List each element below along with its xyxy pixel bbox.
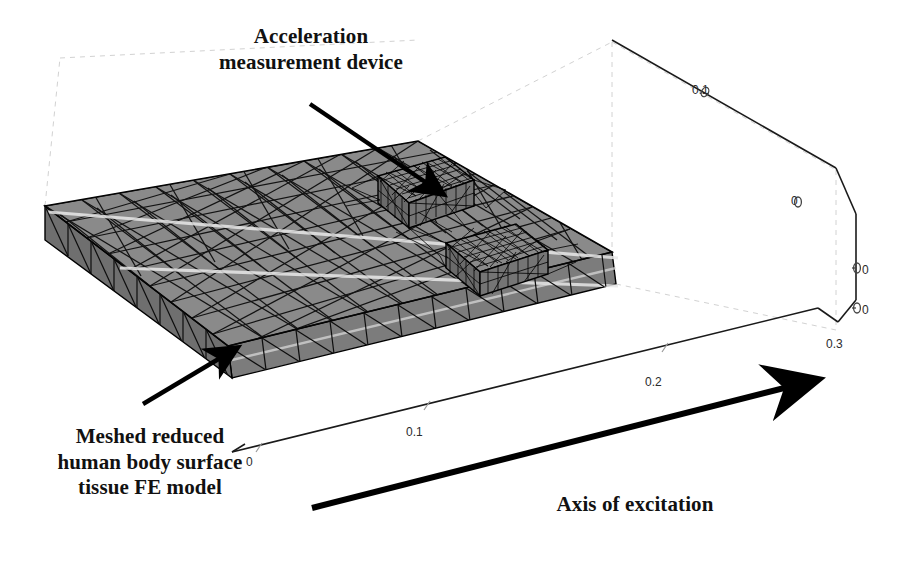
tick-x-02: 0.2	[645, 375, 662, 389]
callout-mesh-arrow	[143, 348, 237, 404]
tick-z-0b: 0	[862, 303, 869, 317]
axis-of-excitation-arrow	[312, 381, 812, 508]
tick-x-01: 0.1	[406, 425, 423, 439]
label-meshed-fe-model: Meshed reduced human body surface tissue…	[18, 424, 282, 501]
depth-axis-ticks	[700, 86, 802, 207]
label-acceleration-measurement-device: Acceleration measurement device	[178, 24, 444, 75]
figure-canvas: Acceleration measurement device Meshed r…	[0, 0, 898, 562]
label-axis-of-excitation: Axis of excitation	[520, 492, 750, 518]
tick-y-01: 0.1	[692, 83, 709, 97]
tick-z-03: 0.3	[826, 337, 843, 351]
tick-y-0: 0	[791, 194, 798, 208]
tick-z-0a: 0	[862, 263, 869, 277]
tick-x-0: 0	[246, 455, 253, 469]
